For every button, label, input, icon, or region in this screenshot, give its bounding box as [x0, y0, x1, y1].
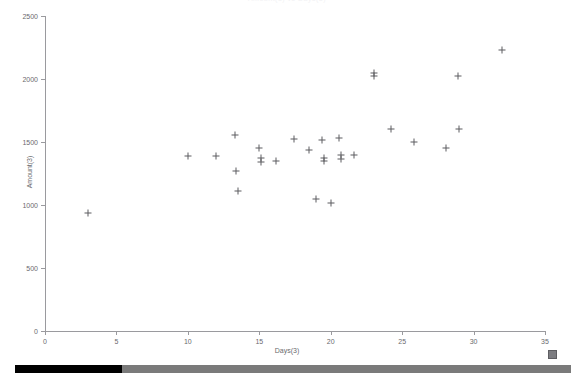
data-point-marker	[443, 144, 450, 151]
y-tick	[41, 205, 45, 206]
scrollbar-thumb[interactable]	[15, 365, 122, 373]
x-tick-label: 15	[255, 338, 263, 345]
data-point-marker	[337, 151, 344, 158]
data-point-marker	[319, 137, 326, 144]
data-point-marker	[320, 154, 327, 161]
data-point-marker	[256, 144, 263, 151]
y-tick-label: 0	[34, 328, 38, 335]
data-point-marker	[321, 157, 328, 164]
data-point-marker	[454, 72, 461, 79]
y-tick	[41, 16, 45, 17]
data-point-marker	[350, 152, 357, 159]
data-point-marker	[184, 152, 191, 159]
x-tick-label: 0	[43, 338, 47, 345]
x-tick-label: 35	[541, 338, 549, 345]
y-tick	[41, 142, 45, 143]
resize-handle[interactable]	[548, 350, 557, 359]
data-point-marker	[499, 47, 506, 54]
x-tick	[474, 331, 475, 335]
y-tick-label: 500	[26, 265, 38, 272]
data-point-marker	[233, 167, 240, 174]
data-point-marker	[313, 195, 320, 202]
x-tick	[545, 331, 546, 335]
data-point-marker	[273, 157, 280, 164]
x-tick-label: 20	[327, 338, 335, 345]
data-point-marker	[336, 135, 343, 142]
x-tick-label: 25	[398, 338, 406, 345]
x-tick-label: 30	[470, 338, 478, 345]
x-tick	[402, 331, 403, 335]
y-tick	[41, 268, 45, 269]
x-tick	[331, 331, 332, 335]
y-tick-label: 2000	[22, 76, 38, 83]
x-tick-label: 10	[184, 338, 192, 345]
data-point-marker	[371, 72, 378, 79]
x-axis-title: Days(3)	[0, 347, 574, 354]
data-point-marker	[213, 153, 220, 160]
x-tick	[259, 331, 260, 335]
data-point-marker	[232, 132, 239, 139]
y-axis-title: Amount(3)	[26, 156, 33, 189]
y-tick-label: 1000	[22, 202, 38, 209]
y-tick	[41, 79, 45, 80]
data-point-marker	[258, 158, 265, 165]
horizontal-scrollbar[interactable]	[0, 363, 574, 375]
data-point-marker	[290, 135, 297, 142]
x-tick	[188, 331, 189, 335]
x-tick	[45, 331, 46, 335]
data-point-marker	[327, 200, 334, 207]
x-axis-line	[45, 331, 545, 332]
y-tick-label: 2500	[22, 13, 38, 20]
data-point-marker	[370, 69, 377, 76]
data-point-marker	[306, 146, 313, 153]
data-point-marker	[338, 156, 345, 163]
data-point-marker	[410, 139, 417, 146]
data-point-marker	[456, 126, 463, 133]
data-point-marker	[387, 125, 394, 132]
data-point-marker	[84, 210, 91, 217]
plot-area[interactable]: 05001000150020002500 05101520253035 Days…	[0, 0, 574, 345]
x-tick-label: 5	[114, 338, 118, 345]
scatter-plot-window: Amount(3) vs Days(3) 0500100015002000250…	[0, 0, 574, 375]
y-tick-label: 1500	[22, 139, 38, 146]
data-point-marker	[257, 155, 264, 162]
data-point-marker	[234, 188, 241, 195]
x-tick	[116, 331, 117, 335]
y-axis-line	[45, 16, 46, 331]
